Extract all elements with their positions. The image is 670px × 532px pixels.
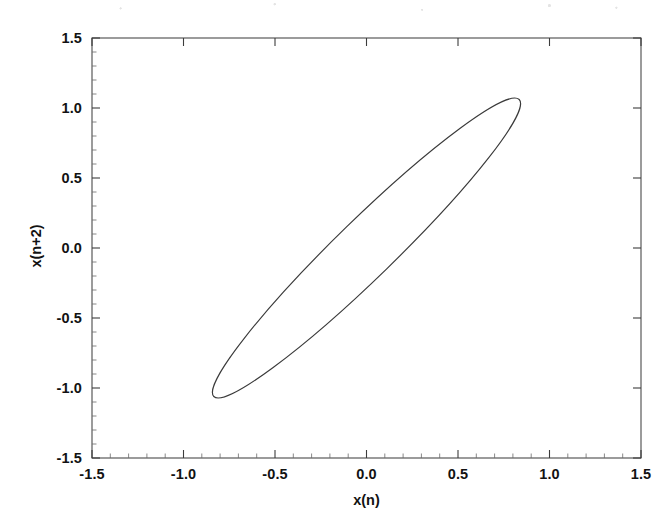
- data-curve-group: [194, 79, 540, 418]
- x-axis-major-ticks: [92, 450, 641, 458]
- y-tick-label-3: 0.5: [30, 170, 82, 186]
- figure-page: 1.5 1.0 0.5 0.0 -0.5 -1.0 -1.5 -1.5 -1.0…: [0, 0, 670, 532]
- phase-plot-canvas: [0, 0, 670, 532]
- x-tick-label-2: -1.0: [154, 466, 214, 482]
- x-tick-label-6: 1.0: [520, 466, 580, 482]
- x-tick-label-7: 1.5: [611, 466, 670, 482]
- x-tick-label-4: 0.0: [337, 466, 397, 482]
- orbit-ellipse: [194, 79, 540, 418]
- y-axis-major-ticks: [92, 38, 100, 458]
- y-axis-title: x(n+2): [28, 196, 44, 296]
- y-tick-label-6: -1.0: [30, 380, 82, 396]
- y-tick-label-1: 1.5: [30, 30, 82, 46]
- y-tick-label-7: -1.5: [30, 450, 82, 466]
- y-tick-label-2: 1.0: [30, 100, 82, 116]
- y-tick-label-5: -0.5: [30, 310, 82, 326]
- x-axis-title: x(n): [307, 492, 427, 508]
- x-tick-label-3: -0.5: [245, 466, 305, 482]
- x-tick-label-5: 0.5: [428, 466, 488, 482]
- x-axis-major-ticks-top: [92, 38, 641, 46]
- plot-frame: [92, 38, 641, 458]
- x-tick-label-1: -1.5: [62, 466, 122, 482]
- y-axis-major-ticks-right: [633, 38, 641, 458]
